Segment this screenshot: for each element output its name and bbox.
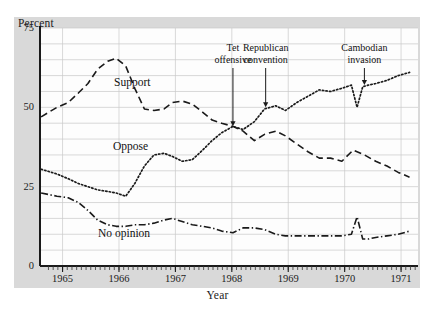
x-tick-1970: 1970 — [323, 273, 367, 284]
annotation-cambodian: Cambodianinvasion — [304, 42, 424, 65]
series-label-oppose: Oppose — [113, 140, 148, 152]
x-tick-1967: 1967 — [153, 273, 197, 284]
series-line-support — [41, 58, 409, 177]
annotation-cambodian-line1: Cambodian — [304, 42, 424, 54]
series-line-oppose — [41, 72, 409, 196]
x-tick-1969: 1969 — [266, 273, 310, 284]
x-tick-1965: 1965 — [41, 273, 85, 284]
x-axis-title: Year — [0, 289, 435, 301]
series-line-no-opinion — [41, 193, 409, 239]
x-tick-1966: 1966 — [97, 273, 141, 284]
annotation-arrows — [230, 68, 367, 126]
y-tick-0: 0 — [8, 260, 34, 271]
x-tick-1971: 1971 — [379, 273, 423, 284]
y-tick-75: 75 — [8, 22, 34, 33]
series-label-support: Support — [114, 76, 150, 88]
y-tick-50: 50 — [8, 101, 34, 112]
chart-figure: Percent Year 7550250 1965196619671968196… — [0, 0, 435, 309]
y-tick-25: 25 — [8, 181, 34, 192]
series-label-no-opinion: No opinion — [98, 227, 150, 239]
annotation-cambodian-line2: invasion — [304, 54, 424, 66]
x-tick-1968: 1968 — [210, 273, 254, 284]
